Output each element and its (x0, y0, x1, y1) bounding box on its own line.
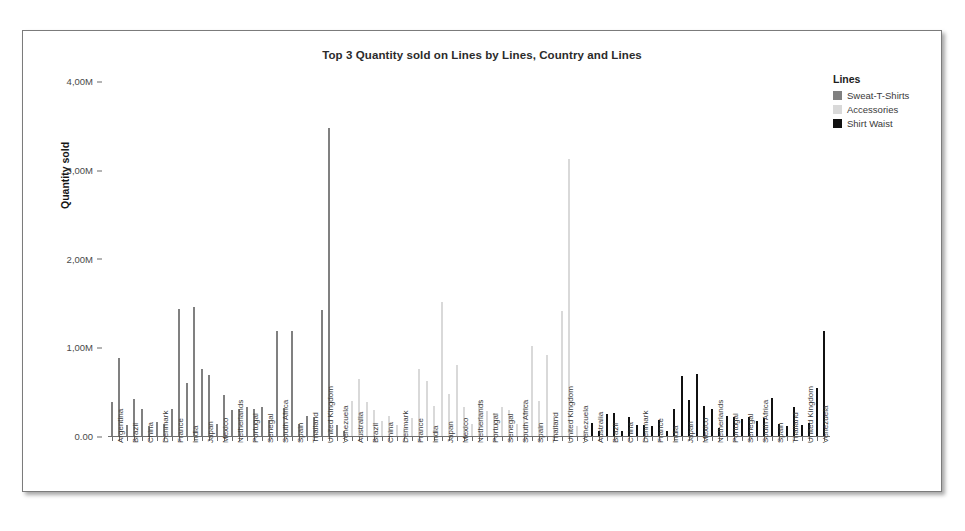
bar[interactable] (156, 422, 158, 436)
x-axis-tick-mark (442, 437, 443, 441)
bar[interactable] (456, 365, 458, 436)
x-axis-tick-mark (667, 437, 668, 441)
x-axis-country-label: Netherlands (237, 400, 245, 443)
legend-entry[interactable]: Accessories (833, 104, 953, 115)
bar[interactable] (471, 424, 473, 436)
bar[interactable] (178, 309, 180, 436)
x-axis-country-label: Venezuela (822, 406, 830, 443)
bar[interactable] (801, 425, 803, 436)
x-axis-tick-mark (142, 437, 143, 441)
bar[interactable] (381, 421, 383, 436)
bar[interactable] (786, 426, 788, 436)
x-axis-country-label: United Kingdom (567, 386, 575, 443)
legend-entry-label: Sweat-T-Shirts (847, 90, 909, 101)
bar[interactable] (351, 401, 353, 436)
bar[interactable] (411, 418, 413, 436)
bar[interactable] (126, 425, 128, 436)
bar[interactable] (756, 421, 758, 436)
x-axis-tick-labels: ArgentinaBrazilChinaDenmarkFranceIndiaJa… (108, 443, 830, 521)
bar[interactable] (426, 381, 428, 436)
bar[interactable] (366, 402, 368, 436)
bar[interactable] (606, 414, 608, 436)
x-axis-country-label: Australia (357, 412, 365, 443)
legend-title: Lines (833, 73, 953, 85)
y-axis-tick-label: 2,00M (67, 253, 108, 264)
x-axis-country-label: Denmark (642, 411, 650, 443)
legend-swatch-icon (833, 119, 842, 128)
x-axis-country-label: United Kingdom (327, 386, 335, 443)
bar[interactable] (771, 398, 773, 436)
x-axis-country-label: India (192, 426, 200, 443)
bar[interactable] (516, 424, 518, 436)
x-axis-tick-mark (817, 437, 818, 441)
x-axis-country-label: China (147, 422, 155, 443)
x-axis-tick-mark (382, 437, 383, 441)
x-axis-tick-mark (532, 437, 533, 441)
bar[interactable] (681, 376, 683, 436)
x-axis-country-label: Senegal (747, 414, 755, 443)
bar[interactable] (531, 346, 533, 436)
report-canvas: Top 3 Quantity sold on Lines by Lines, C… (22, 30, 942, 492)
x-axis-country-label: Denmark (162, 411, 170, 443)
legend-entry[interactable]: Sweat-T-Shirts (833, 90, 953, 101)
x-axis-tick-mark (787, 437, 788, 441)
bar[interactable] (501, 407, 503, 436)
x-axis-tick-mark (262, 437, 263, 441)
bar[interactable] (741, 419, 743, 436)
bar[interactable] (261, 407, 263, 436)
bar[interactable] (111, 402, 113, 436)
bar[interactable] (306, 416, 308, 436)
x-axis-tick-mark (202, 437, 203, 441)
legend-entry-label: Shirt Waist (847, 118, 893, 129)
bar[interactable] (336, 425, 338, 436)
y-axis-title: Quantity sold (59, 195, 71, 209)
bar[interactable] (246, 407, 248, 436)
bar[interactable] (441, 302, 443, 436)
x-axis-tick-mark (322, 437, 323, 441)
x-axis-country-label: Thailand (792, 412, 800, 443)
x-axis-tick-mark (352, 437, 353, 441)
x-axis-country-label: Thailand (312, 412, 320, 443)
x-axis-tick-mark (367, 437, 368, 441)
x-axis-tick-mark (547, 437, 548, 441)
y-axis-tick-label: 4,00M (67, 76, 108, 87)
x-axis-country-label: Australia (597, 412, 605, 443)
bar[interactable] (816, 388, 818, 436)
x-axis-country-label: South Africa (762, 400, 770, 443)
x-axis-tick-mark (592, 437, 593, 441)
bar[interactable] (216, 424, 218, 436)
x-axis-tick-mark (427, 437, 428, 441)
bar[interactable] (396, 425, 398, 436)
x-axis-tick-mark (172, 437, 173, 441)
legend-entry-list: Sweat-T-ShirtsAccessoriesShirt Waist (833, 90, 953, 129)
x-axis-country-label: Portugal (732, 413, 740, 443)
bar[interactable] (141, 409, 143, 436)
bar[interactable] (576, 426, 578, 436)
bar[interactable] (193, 307, 195, 436)
x-axis-tick-mark (337, 437, 338, 441)
legend-entry[interactable]: Shirt Waist (833, 118, 953, 129)
bar[interactable] (726, 416, 728, 436)
bar[interactable] (546, 355, 548, 436)
bar[interactable] (186, 383, 188, 436)
x-axis-country-label: India (432, 426, 440, 443)
bar[interactable] (171, 409, 173, 436)
bar[interactable] (696, 374, 698, 436)
x-axis-country-label: Portugal (252, 413, 260, 443)
bar[interactable] (591, 423, 593, 436)
x-axis-country-label: United Kingdom (807, 386, 815, 443)
x-axis-country-label: Venezuela (582, 406, 590, 443)
x-axis-country-label: Japan (207, 421, 215, 443)
bar[interactable] (486, 411, 488, 436)
bar[interactable] (201, 369, 203, 436)
bar[interactable] (711, 409, 713, 437)
x-axis-country-label: Spain (777, 423, 785, 443)
bar[interactable] (651, 426, 653, 436)
x-axis-tick-mark (757, 437, 758, 441)
bar[interactable] (636, 425, 638, 436)
bar[interactable] (231, 410, 233, 436)
bar[interactable] (291, 331, 293, 436)
bar[interactable] (276, 331, 278, 436)
bar[interactable] (321, 310, 323, 436)
bar[interactable] (561, 311, 563, 436)
